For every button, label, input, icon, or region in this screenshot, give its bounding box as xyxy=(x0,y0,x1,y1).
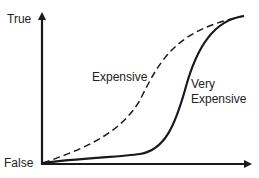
y-axis-false-label: False xyxy=(4,157,33,170)
y-axis-true-label: True xyxy=(7,13,31,26)
fuzzy-membership-diagram xyxy=(0,0,259,178)
very-expensive-curve-label-line1: Very xyxy=(191,78,215,91)
expensive-curve-label: Expensive xyxy=(92,71,147,84)
very-expensive-curve-label-line2: Expensive xyxy=(191,93,246,106)
